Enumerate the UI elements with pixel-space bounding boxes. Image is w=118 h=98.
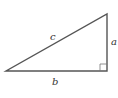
label-b: b — [52, 76, 58, 87]
label-c: c — [50, 31, 56, 42]
right-triangle-diagram: c a b — [0, 0, 118, 98]
right-angle-marker — [100, 64, 107, 71]
triangle — [6, 14, 107, 71]
label-a: a — [111, 36, 117, 47]
